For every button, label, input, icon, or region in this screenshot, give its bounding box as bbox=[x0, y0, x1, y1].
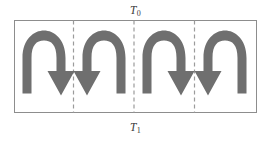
convection-diagram-figure: T0 bbox=[0, 0, 271, 141]
bottom-temperature-subscript: 1 bbox=[137, 126, 141, 135]
top-temperature-label: T0 bbox=[0, 5, 271, 18]
fluid-layer-box bbox=[14, 20, 257, 113]
top-temperature-subscript: 0 bbox=[137, 9, 141, 18]
bottom-temperature-symbol: T bbox=[130, 121, 137, 133]
bottom-temperature-label: T1 bbox=[0, 122, 271, 135]
top-temperature-symbol: T bbox=[130, 4, 137, 16]
